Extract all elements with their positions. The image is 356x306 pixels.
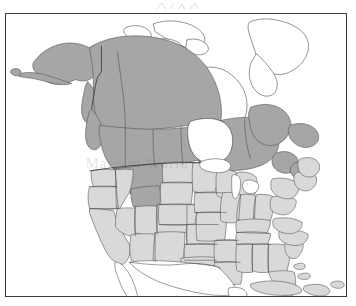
figure-page: Maps of World <box>0 0 356 306</box>
map-frame: Maps of World <box>5 13 347 297</box>
aleutian-islet-west <box>11 69 22 76</box>
hispaniola-area <box>303 284 329 296</box>
arkansas-area <box>214 240 239 263</box>
bahamas-islet-b <box>298 273 310 279</box>
north-dakota-area <box>162 162 195 183</box>
oregon-area <box>88 186 119 209</box>
scan-artifact-top <box>152 1 212 12</box>
lake-huron-erie <box>243 180 259 194</box>
wyoming-area <box>131 186 161 208</box>
new-mexico-area <box>153 232 185 263</box>
puerto-rico-area <box>331 281 344 288</box>
newfoundland-area <box>288 124 318 148</box>
yucatan-area <box>228 287 247 296</box>
bahamas-islet-a <box>294 263 305 269</box>
nebraska-area <box>158 204 197 225</box>
pennsylvania-area <box>270 196 296 215</box>
washington-area <box>91 169 117 187</box>
north-america-range-map <box>6 14 346 296</box>
south-dakota-area <box>160 182 193 205</box>
maine-area <box>298 158 320 177</box>
virginia-area <box>273 218 302 234</box>
